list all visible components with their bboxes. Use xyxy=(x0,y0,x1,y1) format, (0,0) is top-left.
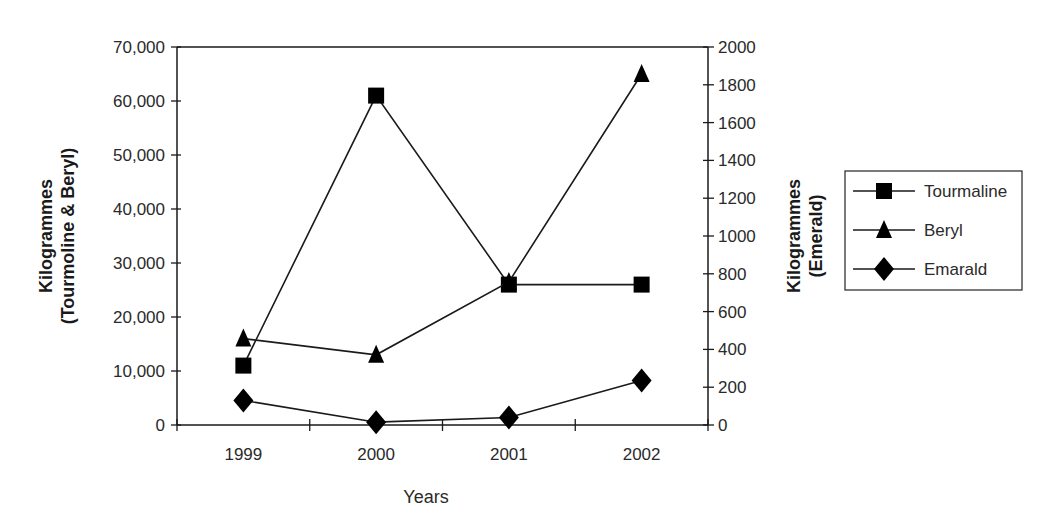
y-tick-label: 0 xyxy=(156,416,165,435)
y2-tick-label: 1400 xyxy=(718,151,756,170)
y2-tick-label: 1800 xyxy=(718,76,756,95)
diamond-marker-icon xyxy=(499,405,519,429)
y-tick-label: 60,000 xyxy=(113,92,165,111)
triangle-marker-icon xyxy=(634,64,650,82)
right-axis: 0200400600800100012001400160018002000 xyxy=(703,38,756,435)
series-beryl xyxy=(235,64,649,363)
y-tick-label: 50,000 xyxy=(113,146,165,165)
y2-tick-label: 1600 xyxy=(718,114,756,133)
y2-tick-label: 1000 xyxy=(718,227,756,246)
x-axis-title: Years xyxy=(403,487,448,507)
square-legend-icon xyxy=(876,183,892,199)
left-axis: 010,00020,00030,00040,00050,00060,00070,… xyxy=(113,38,181,435)
x-tick-label: 1999 xyxy=(224,445,262,464)
x-tick-label: 2001 xyxy=(490,445,528,464)
legend-label: Beryl xyxy=(924,221,963,240)
y2-tick-label: 1200 xyxy=(718,189,756,208)
diamond-marker-icon xyxy=(366,410,386,434)
left-axis-title: Kilogrammes(Tourmoline & Beryl) xyxy=(36,148,78,325)
x-tick-label: 2000 xyxy=(357,445,395,464)
x-tick-label: 2002 xyxy=(623,445,661,464)
series-tourmaline xyxy=(235,88,649,374)
diamond-marker-icon xyxy=(233,388,253,412)
y-tick-label: 20,000 xyxy=(113,308,165,327)
y2-tick-label: 200 xyxy=(718,378,746,397)
y-tick-label: 70,000 xyxy=(113,38,165,57)
right-axis-title: Kilogrammes(Emerald) xyxy=(784,179,826,293)
y-tick-label: 30,000 xyxy=(113,254,165,273)
y2-tick-label: 800 xyxy=(718,265,746,284)
triangle-marker-icon xyxy=(235,329,251,347)
y2-tick-label: 0 xyxy=(718,416,727,435)
legend: TourmalineBerylEmarald xyxy=(845,171,1022,290)
legend-item-tourmaline: Tourmaline xyxy=(853,182,1007,201)
y2-tick-label: 400 xyxy=(718,340,746,359)
square-marker-icon xyxy=(235,358,251,374)
y2-tick-label: 2000 xyxy=(718,38,756,57)
square-marker-icon xyxy=(634,277,650,293)
y2-tick-label: 600 xyxy=(718,303,746,322)
plot-frame xyxy=(177,47,708,425)
y-tick-label: 40,000 xyxy=(113,200,165,219)
series-layer xyxy=(233,64,651,434)
legend-label: Tourmaline xyxy=(924,182,1007,201)
legend-label: Emarald xyxy=(924,260,987,279)
chart: 010,00020,00030,00040,00050,00060,00070,… xyxy=(0,0,1057,529)
square-marker-icon xyxy=(368,88,384,104)
y-tick-label: 10,000 xyxy=(113,362,165,381)
diamond-marker-icon xyxy=(632,369,652,393)
